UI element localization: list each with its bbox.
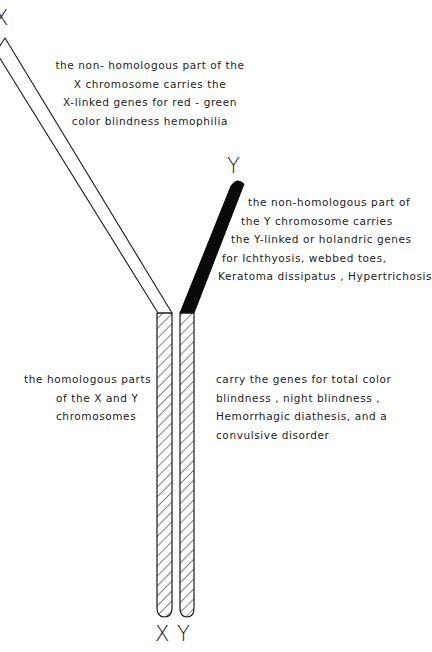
- homologous-parts-annotation: the homologous parts of the X and Y chro…: [24, 370, 151, 426]
- y-nonhomologous-annotation: the non-homologous part of the Y chromos…: [218, 193, 432, 286]
- x-chromosome-homologous-segment: [157, 313, 172, 617]
- y-top-label: Y: [227, 154, 240, 178]
- x-bottom-label: X: [155, 622, 169, 646]
- annotation-line: convulsive disorder: [216, 426, 391, 445]
- y-bottom-label: Y: [177, 622, 190, 646]
- annotation-line: blindness , night blindness ,: [216, 389, 391, 408]
- annotation-line: the non-homologous part of: [218, 193, 432, 212]
- homologous-genes-annotation: carry the genes for total color blindnes…: [216, 370, 391, 444]
- x-nonhomologous-annotation: the non- homologous part of the X chromo…: [30, 56, 270, 130]
- annotation-line: for Ichthyosis, webbed toes,: [218, 249, 432, 268]
- annotation-line: Hemorrhagic diathesis, and a: [216, 407, 391, 426]
- annotation-line: Keratoma dissipatus , Hypertrichosis: [218, 267, 432, 286]
- annotation-line: the non- homologous part of the: [30, 56, 270, 75]
- annotation-line: X chromosome carries the: [30, 75, 270, 94]
- y-chromosome-homologous-segment: [180, 313, 194, 617]
- annotation-line: the Y-linked or holandric genes: [218, 230, 432, 249]
- annotation-line: color blindness hemophilia: [30, 112, 270, 131]
- annotation-line: of the X and Y: [24, 389, 151, 408]
- annotation-line: the homologous parts: [24, 370, 151, 389]
- x-top-label: X: [0, 6, 8, 30]
- annotation-line: carry the genes for total color: [216, 370, 391, 389]
- annotation-line: chromosomes: [24, 407, 151, 426]
- annotation-line: the Y chromosome carries: [218, 212, 432, 231]
- annotation-line: X-linked genes for red - green: [30, 93, 270, 112]
